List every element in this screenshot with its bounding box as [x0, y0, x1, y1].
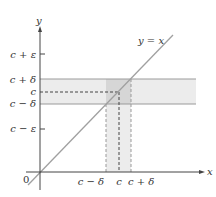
- line-label: y = x: [137, 35, 164, 46]
- x-axis-label: x: [207, 166, 213, 177]
- x-tick-c-plus-delta: c + δ: [128, 176, 154, 187]
- y-tick-c-minus-eps: c − ε: [10, 123, 36, 134]
- y-axis-arrow-icon: [38, 26, 42, 32]
- x-tick-c: c: [116, 176, 122, 187]
- y-tick-c-plus-delta: c + δ: [10, 74, 36, 85]
- y-axis-label: y: [35, 15, 42, 26]
- diagonal-y-equals-x: [28, 35, 173, 185]
- y-tick-c-minus-delta: c − δ: [10, 98, 36, 109]
- epsilon-delta-diagram: y x 0 y = x c + ε c + δ c c − δ c − ε c …: [0, 0, 216, 197]
- y-tick-c-plus-eps: c + ε: [10, 49, 36, 60]
- x-axis-arrow-icon: [199, 170, 205, 174]
- origin-label: 0: [23, 174, 29, 185]
- x-tick-c-minus-delta: c − δ: [78, 176, 104, 187]
- y-tick-c: c: [30, 86, 36, 97]
